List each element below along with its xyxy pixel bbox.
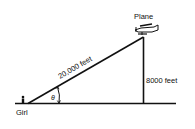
line-of-sight [28,37,144,104]
girl-label: Girl [16,108,28,117]
plane-icon [135,24,158,35]
angle-label: θ [51,94,55,101]
plane-label: Plane [134,12,153,21]
triangle-diagram: Plane Girl 20,000 feet 8000 feet θ [0,0,195,129]
angle-arc-icon [56,87,61,104]
height-label: 8000 feet [146,76,178,85]
girl-icon [22,96,25,104]
